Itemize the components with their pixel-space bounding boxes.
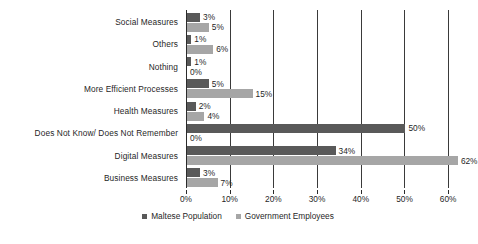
bar [187,146,336,155]
x-axis-tick-label: 10% [221,194,238,204]
bar [187,112,204,121]
bar-slot: 15% [186,89,470,98]
legend-item-government-employees: Government Employees [236,211,334,221]
bar [187,102,196,111]
bar-value-label: 5% [209,22,224,32]
bar-value-label: 50% [405,123,425,133]
x-axis-tick-label: 30% [309,194,326,204]
bar [187,23,209,32]
bar-slot: 62% [186,156,470,165]
legend-label: Maltese Population [151,211,222,221]
bar [187,45,213,54]
bar-slot: 3% [186,13,470,22]
bar [187,89,253,98]
x-axis-tick-label: 60% [440,194,457,204]
bar-value-label: 7% [218,178,233,188]
legend-item-maltese-population: Maltese Population [142,211,222,221]
y-axis-label: Business Measures [104,166,178,191]
bar-slot: 0% [186,67,470,76]
bar-slot: 5% [186,79,470,88]
bar [187,178,218,187]
x-axis: 0%10%20%30%40%50%60% [186,190,470,206]
bar-slot: 1% [186,35,470,44]
x-axis-tick-label: 40% [352,194,369,204]
bar [187,13,200,22]
bar-value-label: 3% [200,12,215,22]
x-axis-tick-label: 50% [396,194,413,204]
bar-group: 3%7% [186,166,470,191]
bar-slot: 34% [186,146,470,155]
bar-value-label: 5% [209,79,224,89]
x-axis-tick-label: 20% [265,194,282,204]
bar [187,124,405,133]
bar-slot: 3% [186,168,470,177]
bar-slot: 1% [186,57,470,66]
x-axis-tick-label: 0% [180,194,192,204]
bar-value-label: 0% [187,133,202,143]
bar-value-label: 1% [191,57,206,67]
bar-slot: 50% [186,124,470,133]
bar-value-label: 4% [204,111,219,121]
bar-value-label: 15% [253,89,273,99]
y-axis-category-labels: Social MeasuresOthersNothingMore Efficie… [0,10,182,188]
bar-value-label: 34% [336,146,356,156]
bar-value-label: 0% [187,67,202,77]
bar-value-label: 6% [213,44,228,54]
bar-value-label: 3% [200,168,215,178]
bar-slot: 7% [186,178,470,187]
bar-slot: 2% [186,102,470,111]
legend-swatch-icon [142,214,147,219]
bar [187,156,458,165]
bar-slot: 5% [186,23,470,32]
chart-legend: Maltese Population Government Employees [0,211,476,221]
bar-slot: 4% [186,112,470,121]
legend-label: Government Employees [245,211,334,221]
bar-slot: 6% [186,45,470,54]
plot-area: 3%5%1%6%1%0%5%15%2%4%50%0%34%62%3%7% [186,10,470,188]
bar-value-label: 2% [196,101,211,111]
bar [187,168,200,177]
bar [187,79,209,88]
bar-value-label: 62% [458,156,478,166]
bar-slot: 0% [186,134,470,143]
legend-swatch-icon [236,214,241,219]
bar-value-label: 1% [191,34,206,44]
